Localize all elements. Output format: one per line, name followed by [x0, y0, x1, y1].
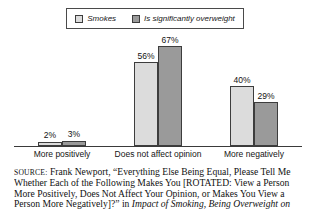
bar-group-more-negatively: 40% 29% — [230, 33, 278, 146]
legend-swatch-icon-overweight — [132, 15, 140, 23]
legend-label-smokes: Smokes — [87, 14, 116, 23]
bar-value-label: 3% — [68, 129, 80, 139]
bar-group-more-positively: 2% 3% — [38, 33, 86, 146]
bar-does-not-affect-opinion-smokes: 56% — [134, 33, 158, 146]
x-axis-tick-label-does-not-affect-opinion: Does not affect opinion — [110, 149, 206, 159]
x-axis-tick-label-more-positively: More positively — [14, 149, 110, 159]
bar-value-label: 29% — [257, 91, 274, 101]
source-publication-title: Impact of Smoking, Being Overweight on — [132, 198, 290, 209]
bar-chart-figure: Smokes Is significantly overweight 2% 3% — [0, 0, 312, 220]
bar-more-negatively-smokes: 40% — [230, 33, 254, 146]
source-tag: SOURCE: — [14, 168, 47, 177]
legend-label-overweight: Is significantly overweight — [144, 14, 235, 23]
plot-area: 2% 3% 56% 67% — [0, 33, 312, 147]
bar-value-label: 56% — [137, 51, 154, 61]
legend-item-overweight: Is significantly overweight — [132, 14, 235, 23]
x-axis-tick-label-more-negatively: More negatively — [206, 149, 302, 159]
bar-value-label: 67% — [161, 35, 178, 45]
bar-value-label: 2% — [44, 130, 56, 140]
bar-rect — [254, 102, 278, 146]
bar-more-positively-overweight: 3% — [62, 33, 86, 146]
legend-swatch-icon-smokes — [75, 15, 83, 23]
bar-groups: 2% 3% 56% 67% — [14, 33, 302, 146]
bar-value-label: 40% — [233, 75, 250, 85]
x-axis-category-labels: More positively Does not affect opinion … — [14, 149, 302, 159]
bar-group-does-not-affect-opinion: 56% 67% — [134, 33, 182, 146]
bar-rect — [230, 86, 254, 146]
bar-rect — [158, 46, 182, 146]
x-axis-line — [14, 146, 302, 147]
bar-more-negatively-overweight: 29% — [254, 33, 278, 146]
bar-more-positively-smokes: 2% — [38, 33, 62, 146]
chart-legend: Smokes Is significantly overweight — [66, 8, 244, 29]
legend-item-smokes: Smokes — [75, 14, 116, 23]
source-note: SOURCE: Frank Newport, “Everything Else … — [14, 167, 300, 220]
bar-does-not-affect-opinion-overweight: 67% — [158, 33, 182, 146]
bar-rect — [134, 62, 158, 146]
